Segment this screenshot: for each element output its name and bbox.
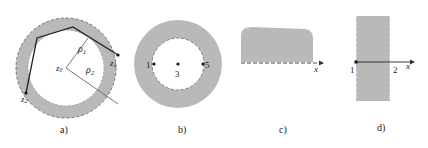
label-1: 1 (146, 60, 151, 70)
label-1: 1 (350, 65, 355, 75)
label-x: x (313, 64, 318, 74)
point-z2 (24, 91, 27, 94)
label-5: 5 (205, 60, 210, 70)
point-z1 (116, 53, 119, 56)
caption-b: b) (178, 124, 186, 136)
half-plane-region (241, 27, 313, 62)
caption-d: d) (377, 122, 385, 134)
label-2: 2 (393, 65, 398, 75)
panel-c: x c) (241, 27, 323, 136)
panel-b: 1 3 5 b) (134, 20, 222, 136)
label-3: 3 (175, 69, 180, 79)
point-1 (355, 61, 358, 64)
panel-a: ρ1 ρ2 z0 z1 z2 a) (16, 18, 120, 136)
label-x: x (405, 61, 410, 71)
diagram-canvas: ρ1 ρ2 z0 z1 z2 a) 1 3 5 b) x c) 1 2 x d) (0, 0, 428, 148)
strip-region (356, 16, 390, 101)
point-1 (152, 62, 155, 65)
point-3 (176, 62, 179, 65)
panel-d: 1 2 x d) (350, 16, 414, 134)
caption-c: c) (279, 124, 287, 136)
caption-a: a) (60, 124, 68, 136)
